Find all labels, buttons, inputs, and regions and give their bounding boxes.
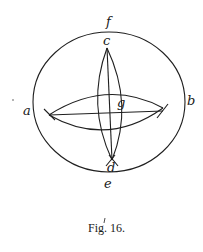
label-c: c — [103, 33, 111, 48]
vertical-axis-line — [107, 48, 112, 160]
figure-caption: Fig. 16. — [88, 221, 125, 235]
horizontal-axis-line — [49, 111, 163, 115]
stray-dot-left — [12, 99, 14, 101]
label-b: b — [187, 93, 195, 108]
figure-16-diagram: f c g a b d e Fig. 16. — [0, 0, 203, 252]
label-f: f — [105, 14, 113, 29]
label-g: g — [117, 95, 125, 110]
label-a: a — [23, 103, 31, 118]
label-d: d — [107, 160, 115, 175]
label-e: e — [104, 176, 112, 191]
